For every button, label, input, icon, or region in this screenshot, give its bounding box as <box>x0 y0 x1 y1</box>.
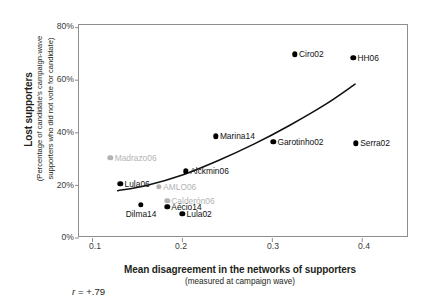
data-point-label-hh06: HH06 <box>357 53 378 63</box>
y-axis-ticks: 80% 60% 40% 20% 0% <box>40 0 74 248</box>
x-axis-subtitle: (measured at campaign wave) <box>60 277 420 286</box>
correlation-annotation: r = +.79 <box>72 286 105 297</box>
plot-area: Ciro02HH06Marina14Garotinho02Serra02Madr… <box>78 24 408 237</box>
data-point-label-garotinho02: Garotinho02 <box>277 137 323 147</box>
data-point-label-dilma14: Dilma14 <box>126 209 157 219</box>
data-point-label-madrazo06: Madrazo06 <box>115 153 157 163</box>
data-point-label-alckmin06: Alckmin06 <box>190 166 229 176</box>
x-tick-label-0.3: 0.3 <box>253 241 293 251</box>
y-tick-label-0: 0% <box>46 232 74 242</box>
x-tick-label-0.2: 0.2 <box>161 241 201 251</box>
data-point-label-marina14: Marina14 <box>220 131 255 141</box>
data-point-label-amlo06: AMLO06 <box>163 182 196 192</box>
y-axis-title: Lost supporters <box>23 0 34 230</box>
y-tick-label-40: 40% <box>46 127 74 137</box>
correlation-symbol: r <box>72 286 75 297</box>
data-point-label-ciro02: Ciro02 <box>299 49 324 59</box>
scatter-plot-figure: Lost supporters (Percentage of candidate… <box>0 0 422 304</box>
y-tick-label-60: 60% <box>46 74 74 84</box>
data-point-label-lula02: Lula02 <box>187 209 212 219</box>
y-tick-label-20: 20% <box>46 180 74 190</box>
x-tick-label-0.4: 0.4 <box>344 241 384 251</box>
correlation-value: = +.79 <box>78 286 105 297</box>
data-point-label-serra02: Serra02 <box>360 138 390 148</box>
data-point-label-lula06: Lula06 <box>125 179 150 189</box>
x-axis-title: Mean disagreement in the networks of sup… <box>60 264 420 275</box>
x-tick-label-0.1: 0.1 <box>75 241 115 251</box>
y-tick-label-80: 80% <box>46 21 74 31</box>
